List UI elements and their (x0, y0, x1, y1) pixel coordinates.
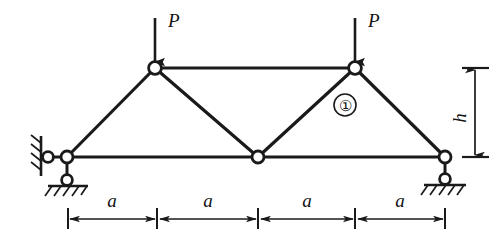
member-left-end-post (67, 68, 155, 157)
member-marker-1: ① (334, 94, 356, 116)
member-marker-label: ① (339, 98, 352, 114)
load-label-left: P (167, 10, 180, 31)
left-wall-hatching (31, 135, 41, 170)
right-ground-hatching (421, 185, 464, 195)
right-ground-pin (440, 174, 451, 185)
span-label-2: a (203, 190, 213, 211)
joint-top-left (149, 62, 162, 75)
truss-members (67, 68, 445, 157)
span-label-4: a (395, 190, 405, 211)
member-right-end-post (355, 68, 445, 157)
span-label-1: a (107, 190, 117, 211)
span-dimension-line: a a a a (68, 190, 445, 229)
joint-bottom-left (61, 151, 73, 163)
span-label-3: a (302, 190, 312, 211)
truss-diagram: P P ① h a a a a (0, 0, 503, 251)
height-dimension: h (449, 68, 489, 157)
height-label: h (449, 113, 470, 123)
load-label-right: P (367, 10, 380, 31)
truss-joints (61, 62, 451, 163)
member-diagonal-left (155, 68, 258, 157)
left-ground-pin (62, 175, 73, 186)
left-wall-pin (43, 152, 54, 163)
joint-bottom-center (252, 151, 264, 163)
joint-bottom-right (439, 151, 451, 163)
left-ground-hatching (45, 186, 87, 196)
load-arrows: P P (155, 10, 380, 62)
joint-top-right (349, 62, 362, 75)
